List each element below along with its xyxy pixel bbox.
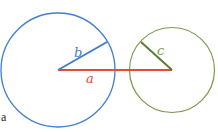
two-circles-diagram: a b c a — [0, 0, 218, 132]
segment-c-label: c — [157, 43, 165, 58]
segment-b-label: b — [74, 45, 82, 60]
panel-label: a — [1, 110, 7, 124]
segment-b-radius — [58, 42, 107, 70]
segment-a-label: a — [86, 71, 94, 86]
